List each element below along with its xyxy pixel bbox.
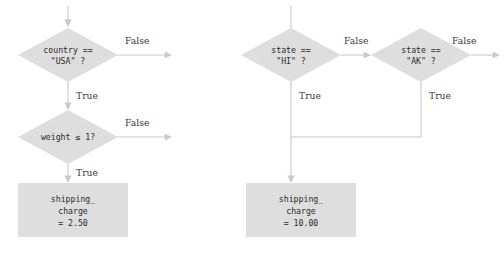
edge-label-country-false: False xyxy=(125,35,149,46)
process-shipping-charge-1000: shipping_ charge = 10.00 xyxy=(246,183,356,237)
decision-state-hi-line2: "HI" ? xyxy=(276,56,306,66)
decision-state-hi: state == "HI" ? xyxy=(241,28,341,82)
edge-label-state-ak-false: False xyxy=(452,35,476,46)
edge-weight-false: False xyxy=(118,117,172,141)
edge-label-state-ak-true: True xyxy=(429,90,451,101)
edge-label-country-true: True xyxy=(76,90,98,101)
process-shipping-charge-250-line1: shipping_ xyxy=(51,194,95,204)
process-shipping-charge-1000-line3: = 10.00 xyxy=(284,218,319,228)
decision-state-ak-line2: "AK" ? xyxy=(406,56,436,66)
left-entry-connector xyxy=(64,6,71,27)
edge-country-true: True xyxy=(64,82,97,110)
flowchart-canvas: country == "USA" ? False True weight ≤ 1… xyxy=(0,0,504,262)
edge-country-false: False xyxy=(118,35,172,59)
decision-weight: weight ≤ 1? xyxy=(18,110,118,164)
decision-country-usa-line2: "USA" ? xyxy=(51,56,86,66)
process-shipping-charge-250-line2: charge xyxy=(58,206,88,216)
edge-state-hi-true: True xyxy=(287,82,320,183)
edge-label-weight-false: False xyxy=(125,117,149,128)
edge-label-state-hi-false: False xyxy=(344,35,368,46)
decision-weight-line1: weight ≤ 1? xyxy=(41,132,95,142)
edge-label-state-hi-true: True xyxy=(299,90,321,101)
process-shipping-charge-250-line3: = 2.50 xyxy=(58,218,88,228)
edge-state-hi-false: False xyxy=(341,35,371,59)
flowchart-svg: country == "USA" ? False True weight ≤ 1… xyxy=(0,0,504,262)
decision-country-usa: country == "USA" ? xyxy=(18,28,118,82)
decision-state-hi-line1: state == xyxy=(271,45,311,55)
process-shipping-charge-1000-line2: charge xyxy=(286,206,316,216)
process-shipping-charge-1000-line1: shipping_ xyxy=(279,194,323,204)
process-shipping-charge-250: shipping_ charge = 2.50 xyxy=(18,183,128,237)
decision-state-ak-line1: state == xyxy=(401,45,441,55)
decision-country-usa-line1: country == xyxy=(43,45,92,55)
edge-weight-true: True xyxy=(64,164,97,183)
edge-label-weight-true: True xyxy=(76,167,98,178)
